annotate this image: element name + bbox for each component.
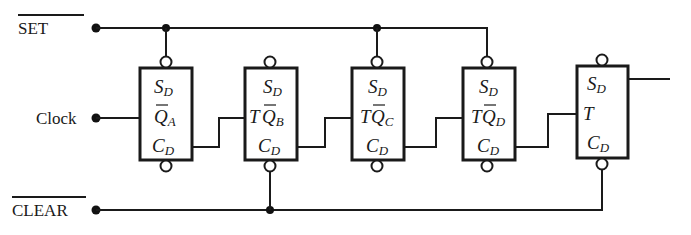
- link-ff3-ff4: [404, 118, 463, 147]
- clear-bus-wire: [96, 169, 602, 210]
- clock-label: Clock: [36, 109, 77, 128]
- ff-c-set-bubble: [372, 57, 383, 68]
- ff-c-clear-bubble: [372, 161, 383, 172]
- flip-flop-d: SD T QD CD: [463, 57, 515, 172]
- ff-e-t-pin: T: [583, 103, 595, 124]
- flip-flop-b: SD T QB CD: [245, 57, 297, 172]
- set-input: SET: [18, 15, 487, 57]
- ff-b-clear-bubble: [265, 161, 276, 172]
- link-ff1-ff2: [192, 118, 245, 147]
- ff-b-t-pin: T: [249, 106, 261, 127]
- ff-b-set-bubble: [265, 57, 276, 68]
- ff-e-set-bubble: [597, 55, 608, 66]
- ff-d-clear-bubble: [482, 161, 493, 172]
- clear-label: CLEAR: [12, 201, 68, 220]
- link-ff4-ff5: [515, 114, 577, 147]
- flip-flop-e: SD T CD: [577, 55, 628, 170]
- ff-a-clear-bubble: [161, 161, 172, 172]
- clear-input: CLEAR: [12, 169, 602, 220]
- ff-a-set-bubble: [161, 57, 172, 68]
- flip-flop-a: SD QA CD: [140, 57, 192, 172]
- ff-d-set-bubble: [482, 57, 493, 68]
- link-ff2-ff3: [297, 118, 352, 147]
- ff-e-clear-bubble: [597, 159, 608, 170]
- counter-schematic: SET Clock CLEAR SD QA CD: [0, 0, 691, 235]
- set-bus-wire: [96, 28, 487, 57]
- set-label: SET: [18, 19, 49, 38]
- clock-input: Clock: [36, 109, 140, 128]
- flip-flop-c: SD T QC CD: [352, 57, 404, 172]
